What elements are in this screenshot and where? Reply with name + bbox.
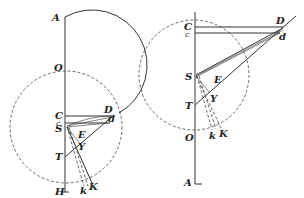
right-line-TD [195, 16, 296, 105]
geometry-diagram: A O C c S D d E Y T H k K C c [0, 0, 304, 198]
label-E: E [213, 74, 222, 85]
label-A: A [183, 177, 192, 188]
label-K: K [88, 181, 99, 192]
label-Y: Y [210, 93, 218, 104]
label-Y: Y [78, 141, 86, 152]
label-d: d [279, 31, 286, 42]
label-k: k [209, 130, 216, 141]
label-E: E [77, 129, 86, 140]
label-K: K [218, 128, 229, 139]
label-S: S [55, 123, 62, 134]
left-dashed-circle [10, 71, 122, 183]
label-D: D [275, 15, 285, 26]
left-figure: A O C c S D d E Y T H k K [10, 10, 147, 197]
right-dashed-circle [139, 20, 249, 130]
right-line-SD [196, 28, 283, 75]
label-O: O [185, 132, 194, 143]
right-line-Sd [196, 33, 280, 77]
right-figure: C c D d S E Y T O k K A [139, 12, 296, 188]
right-line-SD2 [196, 30, 283, 76]
label-A: A [51, 12, 60, 23]
label-O: O [54, 62, 63, 73]
label-S: S [185, 71, 192, 82]
label-c: c [185, 30, 190, 39]
label-T: T [55, 151, 64, 162]
label-H: H [54, 186, 65, 197]
label-k: k [80, 185, 87, 196]
label-d: d [108, 113, 115, 124]
left-quarter-arc [65, 10, 147, 113]
label-T: T [185, 100, 194, 111]
